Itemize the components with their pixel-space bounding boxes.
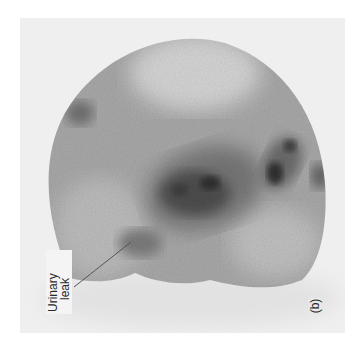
leak-region	[118, 229, 162, 257]
scintigram-panel: Urinary leak (b)	[20, 18, 345, 333]
label-line-2: leak	[59, 252, 71, 312]
uptake-spot	[66, 101, 94, 125]
light-region	[130, 35, 260, 111]
panel-label: (b)	[308, 298, 322, 315]
urinary-leak-label: Urinary leak	[46, 250, 72, 314]
hot-spot	[200, 176, 220, 190]
